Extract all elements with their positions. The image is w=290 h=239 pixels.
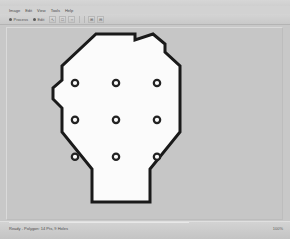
hole-circle[interactable] — [113, 154, 119, 160]
toolbar-separator — [79, 16, 80, 23]
toolbar-radio-edit[interactable]: Edit — [33, 17, 44, 22]
hole-circle[interactable] — [72, 117, 78, 123]
toolbar-separator — [84, 16, 85, 23]
hole-circle[interactable] — [72, 154, 78, 160]
select-tool-button[interactable]: ↖ — [49, 16, 56, 23]
ellipse-tool-button[interactable]: ○ — [68, 16, 75, 23]
toolbar-radio-process-label: Process — [14, 17, 28, 22]
status-zoom-level: 100% — [273, 226, 283, 231]
toolbar-radio-process[interactable]: Process — [9, 17, 28, 22]
hole-circle[interactable] — [113, 117, 119, 123]
radio-dot-icon — [9, 18, 12, 21]
status-bar-grip — [9, 222, 189, 223]
application-window: Image Edit View Tools Help Process Edit … — [0, 0, 290, 239]
rectangle-tool-button[interactable]: □ — [59, 16, 66, 23]
menu-item-tools[interactable]: Tools — [51, 8, 60, 13]
menu-bar: Image Edit View Tools Help — [0, 6, 290, 14]
drawing-canvas[interactable] — [6, 27, 283, 220]
zoom-in-button[interactable]: ⊞ — [88, 16, 95, 23]
menu-item-edit[interactable]: Edit — [25, 8, 32, 13]
zoom-out-button[interactable]: ⊟ — [97, 16, 104, 23]
hole-circle[interactable] — [113, 80, 119, 86]
menu-item-image[interactable]: Image — [9, 8, 20, 13]
status-message: Ready - Polygon: 14 Pts, 9 Holes — [9, 226, 68, 231]
menu-item-help[interactable]: Help — [65, 8, 73, 13]
drawing-svg — [7, 28, 283, 220]
hole-circle[interactable] — [154, 117, 160, 123]
radio-dot-icon — [33, 18, 36, 21]
toolbar-radio-edit-label: Edit — [37, 17, 44, 22]
hole-circle[interactable] — [72, 80, 78, 86]
toolbar: Process Edit ↖ □ ○ ⊞ ⊟ — [0, 14, 290, 25]
menu-item-view[interactable]: View — [37, 8, 46, 13]
status-bar: Ready - Polygon: 14 Pts, 9 Holes 100% — [0, 221, 290, 239]
hole-circle[interactable] — [154, 154, 160, 160]
hole-circle[interactable] — [154, 80, 160, 86]
